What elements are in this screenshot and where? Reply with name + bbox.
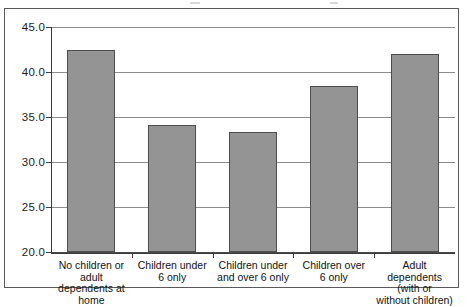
x-axis-label-5: Adult dependents (with or without childr… — [374, 260, 455, 306]
bar-3[interactable] — [229, 132, 277, 252]
y-axis-tick-label: 20.0 — [22, 246, 45, 258]
bar-4[interactable] — [310, 86, 358, 252]
y-axis-tick-mark — [46, 117, 52, 118]
x-axis-label-1: No children or adult dependents at home — [51, 260, 132, 306]
y-axis-tick-label: 30.0 — [22, 156, 45, 168]
x-axis-line — [51, 253, 455, 254]
y-axis-line — [51, 27, 52, 253]
bar-2[interactable] — [148, 125, 196, 252]
y-axis-tick-mark — [46, 207, 52, 208]
x-axis-labels: No children or adult dependents at homeC… — [51, 260, 455, 302]
x-axis-tick-mark — [374, 253, 375, 258]
x-axis-tick-mark — [132, 253, 133, 258]
x-axis-tick-mark — [213, 253, 214, 258]
bar-1[interactable] — [67, 50, 115, 253]
y-axis-tick-label: 45.0 — [22, 21, 45, 33]
y-axis-tick-label: 35.0 — [22, 111, 45, 123]
x-axis-tick-mark — [293, 253, 294, 258]
chart-frame: 45.040.035.030.025.020.0No children or a… — [4, 8, 459, 288]
y-axis-tick-mark — [46, 162, 52, 163]
plot-area — [51, 27, 455, 252]
x-axis-label-2: Children under 6 only — [132, 260, 213, 283]
y-axis-tick-label: 40.0 — [22, 66, 45, 78]
scan-artifact — [190, 2, 200, 4]
x-axis-label-3: Children under and over 6 only — [213, 260, 294, 283]
y-axis-tick-mark — [46, 72, 52, 73]
y-axis-tick-label: 25.0 — [22, 201, 45, 213]
bar-5[interactable] — [391, 54, 439, 252]
y-axis-tick-mark — [46, 252, 52, 253]
y-axis-tick-mark — [46, 27, 52, 28]
gridline-45.0 — [51, 27, 455, 28]
x-axis-label-4: Children over 6 only — [293, 260, 374, 283]
scan-artifact — [330, 2, 338, 4]
